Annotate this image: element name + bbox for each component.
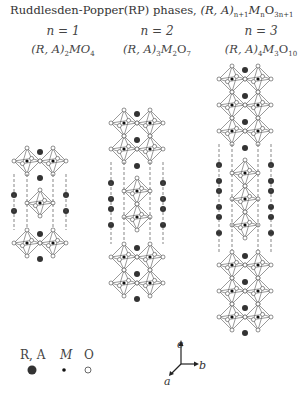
m-atom <box>230 129 233 132</box>
oxygen-atom <box>225 318 229 322</box>
oxygen-atom <box>269 103 273 107</box>
octahedron <box>122 202 152 232</box>
crystal-structures <box>0 0 302 394</box>
oxygen-atom <box>238 174 242 178</box>
oxygen-atom <box>235 286 239 290</box>
oxygen-atom <box>51 254 55 258</box>
oxygen-atom <box>243 236 247 240</box>
oxygen-atom <box>261 312 265 316</box>
m-atom <box>243 223 246 226</box>
m-atom <box>256 129 259 132</box>
ra-atom <box>37 231 43 237</box>
oxygen-atom <box>109 255 113 259</box>
oxygen-atom <box>217 315 221 319</box>
oxygen-atom <box>64 159 68 163</box>
oxygen-atom <box>251 266 255 270</box>
m-atom <box>135 215 138 218</box>
legend-m-label: M <box>60 348 72 362</box>
oxygen-atom <box>143 258 147 262</box>
oxygen-atom <box>238 226 242 230</box>
oxygen-atom <box>12 159 16 163</box>
m-atom <box>148 255 151 258</box>
oxygen-atom <box>56 156 60 160</box>
oxygen-atom <box>235 126 239 130</box>
m-atom <box>122 147 125 150</box>
oxygen-atom <box>269 263 273 267</box>
oxygen-atom <box>230 302 234 306</box>
oxygen-atom <box>269 315 273 319</box>
oxygen-atom <box>153 118 157 122</box>
oxygen-atom <box>143 150 147 154</box>
oxygen-atom <box>135 255 139 259</box>
oxygen-atom <box>230 250 234 254</box>
oxygen-atom <box>33 204 37 208</box>
m-atom <box>230 263 233 266</box>
oxygen-atom <box>130 218 134 222</box>
m-atom <box>148 121 151 124</box>
oxygen-atom <box>140 186 144 190</box>
oxygen-atom <box>117 284 121 288</box>
oxygen-atom <box>243 103 247 107</box>
oxygen-atom <box>243 263 247 267</box>
oxygen-atom <box>238 200 242 204</box>
ra-atom <box>134 296 140 302</box>
oxygen-atom <box>256 328 260 332</box>
oxygen-atom <box>148 242 152 246</box>
oxygen-atom <box>251 80 255 84</box>
oxygen-atom <box>161 281 165 285</box>
oxygen-atom <box>217 103 221 107</box>
legend-o-atom <box>85 367 91 373</box>
oxygen-atom <box>109 147 113 151</box>
oxygen-atom <box>243 210 247 214</box>
ra-atom <box>242 330 248 336</box>
oxygen-atom <box>30 156 34 160</box>
oxygen-atom <box>161 121 165 125</box>
oxygen-atom <box>217 77 221 81</box>
oxygen-atom <box>230 90 234 94</box>
oxygen-atom <box>20 162 24 166</box>
oxygen-atom <box>251 132 255 136</box>
oxygen-atom <box>143 124 147 128</box>
ra-atom <box>242 93 248 99</box>
m-atom <box>148 281 151 284</box>
ra-atom <box>37 149 43 155</box>
oxygen-atom <box>243 184 247 188</box>
oxygen-atom <box>256 302 260 306</box>
m-atom <box>230 289 233 292</box>
oxygen-atom <box>251 106 255 110</box>
oxygen-atom <box>248 168 252 172</box>
oxygen-atom <box>235 100 239 104</box>
oxygen-atom <box>46 162 50 166</box>
m-atom <box>51 159 54 162</box>
oxygen-atom <box>256 250 260 254</box>
octahedron <box>25 188 55 218</box>
oxygen-atom <box>51 146 55 150</box>
ra-atom <box>242 119 248 125</box>
axis-a-label: a <box>164 375 171 388</box>
m-atom <box>135 189 138 192</box>
oxygen-atom <box>256 90 260 94</box>
oxygen-atom <box>30 238 34 242</box>
m-atom <box>256 77 259 80</box>
ra-atom <box>242 253 248 259</box>
m-atom <box>256 315 259 318</box>
ra-atom <box>242 145 248 151</box>
oxygen-atom <box>38 159 42 163</box>
oxygen-atom <box>43 198 47 202</box>
m-atom <box>148 147 151 150</box>
oxygen-atom <box>38 188 42 192</box>
oxygen-atom <box>225 106 229 110</box>
oxygen-atom <box>25 254 29 258</box>
ra-atom <box>37 256 43 262</box>
oxygen-atom <box>109 281 113 285</box>
oxygen-atom <box>230 276 234 280</box>
oxygen-atom <box>243 315 247 319</box>
oxygen-atom <box>135 147 139 151</box>
oxygen-atom <box>64 241 68 245</box>
oxygen-atom <box>261 260 265 264</box>
oxygen-atom <box>148 294 152 298</box>
m-atom <box>122 281 125 284</box>
oxygen-atom <box>127 144 131 148</box>
octahedron <box>230 158 260 188</box>
m-atom <box>230 103 233 106</box>
